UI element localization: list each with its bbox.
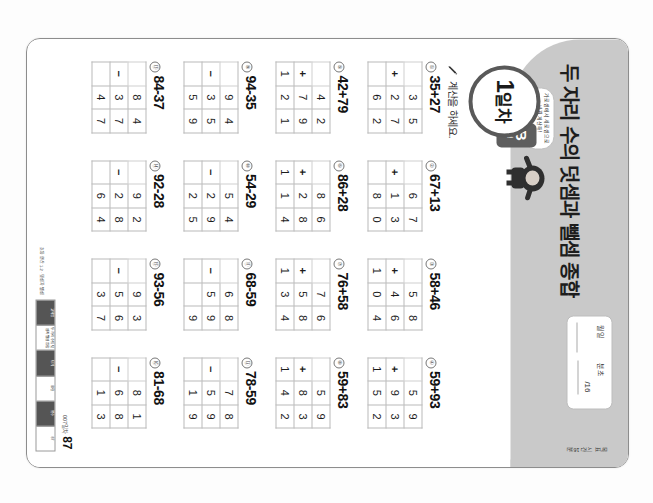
problem-item: ⑮93-5693−5637 [80, 258, 166, 351]
calc-cell-answer-ones[interactable]: 9 [184, 306, 202, 330]
calc-cell-answer-ones[interactable]: 7 [92, 306, 110, 330]
problem-number: ⑭ [150, 160, 161, 171]
calc-cell-addend1-ones: 1 [128, 404, 146, 428]
calc-cell-answer-ones[interactable]: 4 [92, 207, 110, 231]
calc-cell-answer-ones[interactable]: 4 [276, 306, 294, 330]
calc-row: +58 [294, 259, 312, 330]
day-badge-number: 1 [491, 79, 518, 92]
problem-item: ⑯81-6881−6813 [80, 357, 166, 450]
calc-cell-answer-hundreds[interactable]: 1 [276, 357, 294, 381]
time-label: 분 초 [595, 362, 605, 376]
calc-row: 76 [312, 259, 330, 330]
problem-expression: 94-35 [242, 75, 258, 109]
problem-item: ⑪68-5968−599 [172, 258, 258, 351]
calc-cell-answer-tens[interactable]: 1 [92, 381, 110, 405]
calc-cell-addend1-tens: 3 [404, 85, 422, 109]
calc-cell-addend2-tens: 5 [110, 282, 128, 306]
calc-cell-answer-ones[interactable]: 2 [368, 404, 386, 428]
problem-header: ⑨94-35 [242, 61, 258, 154]
calc-cell-addend2-tens: 3 [202, 85, 220, 109]
calc-cell-addend2-ones: 5 [202, 109, 220, 133]
calc-cell-answer-tens[interactable]: 1 [276, 184, 294, 208]
calc-cell-answer-hundreds[interactable] [92, 357, 110, 381]
calc-cell-pad [312, 357, 330, 381]
calc-cell-answer-ones[interactable]: 5 [184, 207, 202, 231]
calc-cell-addend1-tens: 8 [128, 85, 146, 109]
calc-cell-pad [220, 62, 238, 86]
problem-expression: 84-37 [150, 75, 166, 109]
calc-row: +46 [386, 259, 404, 330]
calc-cell-answer-tens[interactable]: 5 [184, 85, 202, 109]
calc-cell-answer-tens[interactable] [184, 282, 202, 306]
calc-cell-answer-hundreds[interactable]: 1 [276, 259, 294, 283]
calc-cell-answer-ones[interactable]: 1 [276, 109, 294, 133]
problem-header: ⑩54-29 [242, 160, 258, 253]
vertical-calculation-table: 59+83142 [275, 357, 330, 429]
calc-cell-answer-ones[interactable]: 9 [184, 404, 202, 428]
calc-cell-answer-hundreds[interactable] [92, 259, 110, 283]
calc-cell-answer-tens[interactable]: 2 [184, 184, 202, 208]
imprint-cell: 단계 [36, 350, 54, 375]
imprint-side-text: 초등 연산 1-2 · 덧셈과 뺄셈 [38, 246, 44, 295]
calc-cell-answer-ones[interactable]: 2 [368, 109, 386, 133]
calc-cell-answer-ones[interactable]: 9 [184, 109, 202, 133]
calc-cell-operator: + [386, 357, 404, 381]
problem-header: ⑪68-59 [242, 258, 258, 351]
imprint-cell: 두 자리 수의 덧셈과 뺄셈 종합 [36, 325, 54, 350]
calc-cell-answer-hundreds[interactable] [92, 62, 110, 86]
calc-cell-answer-tens[interactable]: 4 [276, 381, 294, 405]
calc-cell-answer-tens[interactable]: 6 [368, 85, 386, 109]
calc-cell-addend2-ones: 9 [202, 207, 220, 231]
calc-cell-addend1-ones: 4 [128, 109, 146, 133]
calc-row: +93 [386, 357, 404, 428]
calc-cell-answer-hundreds[interactable]: 1 [276, 62, 294, 86]
time-value-field[interactable]: /16 [577, 360, 591, 394]
calc-cell-answer-hundreds[interactable] [92, 160, 110, 184]
calc-cell-answer-tens[interactable]: 6 [92, 184, 110, 208]
calc-cell-answer-tens[interactable]: 8 [368, 184, 386, 208]
calc-cell-answer-tens[interactable]: 3 [276, 282, 294, 306]
problem-expression: 81-68 [150, 371, 166, 405]
calc-cell-answer-ones[interactable]: 0 [368, 207, 386, 231]
calc-row: 59 [312, 357, 330, 428]
calc-cell-pad [128, 357, 146, 381]
calc-cell-answer-hundreds[interactable] [368, 62, 386, 86]
workbook-page-sheet: 두 자리 수의 덧셈과 뺄셈 종합 월 일 분 초 /16 목표 시간 16분 … [26, 38, 629, 468]
calc-cell-answer-hundreds[interactable] [184, 62, 202, 86]
workbook-page-rotated: 두 자리 수의 덧셈과 뺄셈 종합 월 일 분 초 /16 목표 시간 16분 … [27, 39, 628, 467]
calc-cell-addend1-ones: 4 [220, 109, 238, 133]
calc-cell-answer-hundreds[interactable] [184, 357, 202, 381]
calc-row: 42 [312, 62, 330, 133]
date-value-field[interactable] [576, 322, 591, 352]
problem-header: ⑥86+28 [334, 160, 350, 253]
calc-cell-operator: − [110, 357, 128, 381]
problem-header: ④59+93 [426, 357, 442, 450]
calc-cell-answer-tens[interactable]: 3 [92, 282, 110, 306]
calc-cell-answer-ones[interactable]: 4 [276, 207, 294, 231]
calc-row: 59 [184, 62, 202, 133]
calc-cell-answer-ones[interactable]: 4 [368, 306, 386, 330]
calc-row: 152 [368, 357, 386, 428]
calc-cell-answer-hundreds[interactable] [184, 259, 202, 283]
calc-cell-answer-ones[interactable]: 7 [92, 109, 110, 133]
calc-cell-answer-hundreds[interactable]: 1 [368, 357, 386, 381]
calc-cell-answer-tens[interactable]: 2 [276, 85, 294, 109]
calc-cell-pad [220, 357, 238, 381]
calc-cell-answer-ones[interactable]: 2 [276, 404, 294, 428]
calc-cell-addend1-ones: 6 [312, 306, 330, 330]
calc-cell-answer-hundreds[interactable]: 1 [368, 259, 386, 283]
calc-cell-answer-hundreds[interactable] [184, 160, 202, 184]
calc-cell-answer-ones[interactable]: 3 [92, 404, 110, 428]
calc-cell-answer-hundreds[interactable] [368, 160, 386, 184]
calc-cell-answer-tens[interactable]: 0 [368, 282, 386, 306]
calc-cell-answer-hundreds[interactable]: 1 [276, 160, 294, 184]
calc-cell-answer-tens[interactable]: 4 [92, 85, 110, 109]
problem-expression: 59+93 [426, 371, 442, 408]
problem-number: ⑬ [150, 61, 161, 72]
calc-cell-answer-tens[interactable]: 5 [368, 381, 386, 405]
calc-cell-answer-tens[interactable]: 1 [184, 381, 202, 405]
imprint-cell: 교재명 [36, 300, 54, 325]
calc-row: 142 [276, 357, 294, 428]
problem-number: ③ [426, 258, 437, 269]
problem-item: ⑫78-5978−5919 [172, 357, 258, 450]
